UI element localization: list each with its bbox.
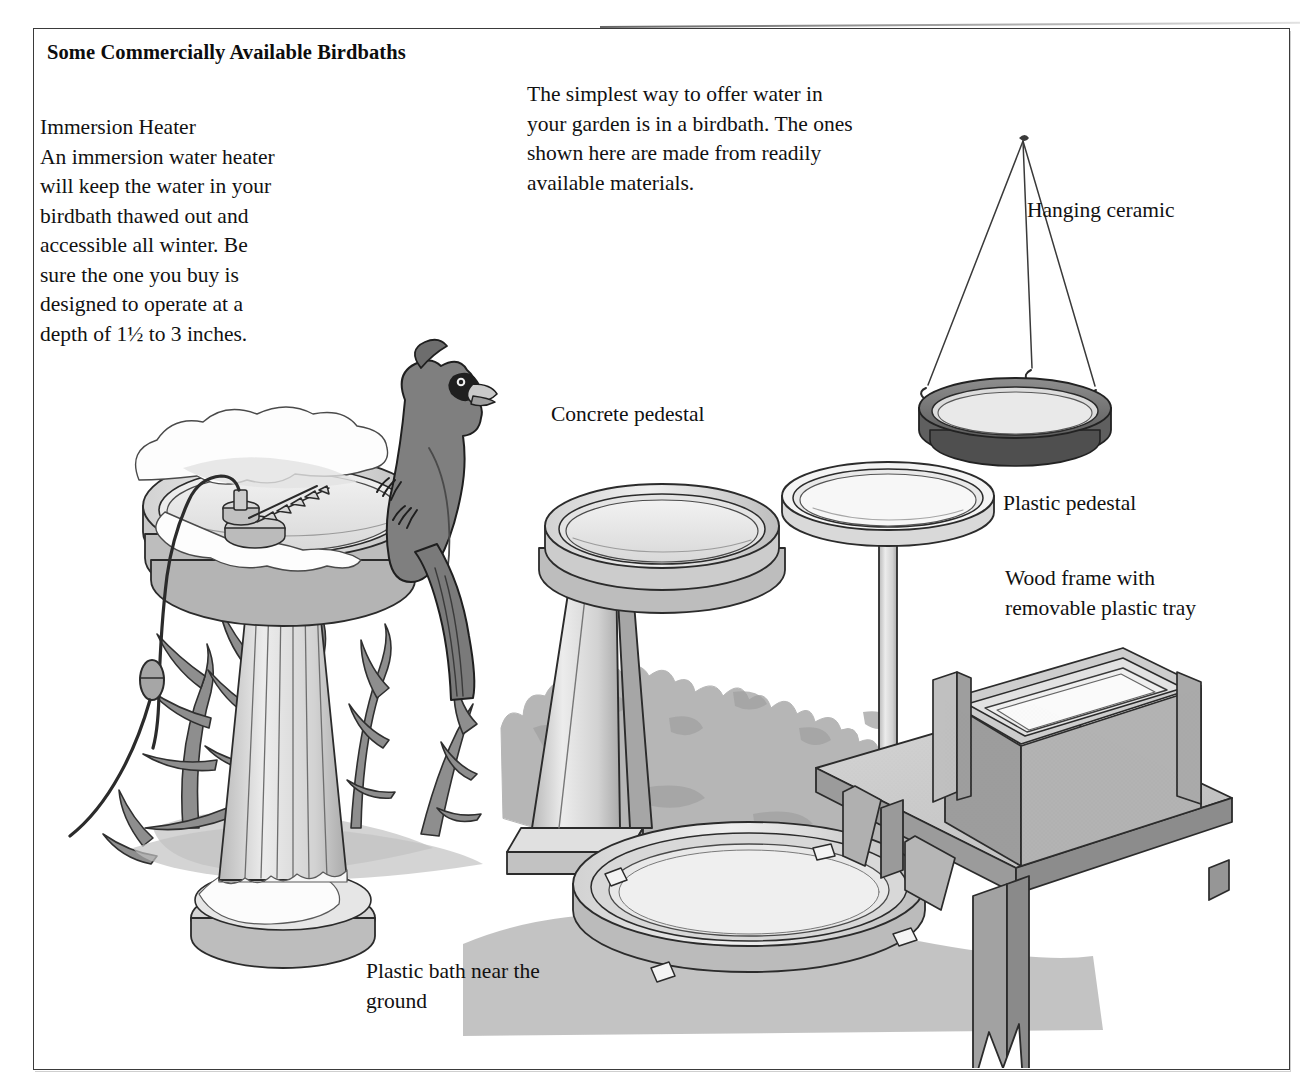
cardinal-bird <box>377 340 497 700</box>
immersion-heater-text: Immersion Heater An immersion water heat… <box>40 113 340 349</box>
hanging-ceramic-birdbath <box>919 135 1111 466</box>
suspension-wires <box>928 141 1095 386</box>
label-hanging-ceramic: Hanging ceramic <box>1027 196 1174 226</box>
intro-text: The simplest way to offer water in your … <box>527 80 857 198</box>
label-plastic-pedestal: Plastic pedestal <box>1003 489 1136 519</box>
heated-birdbath <box>70 340 497 968</box>
figure-page: Some Commercially Available Birdbaths Im… <box>0 0 1307 1088</box>
label-concrete-pedestal: Concrete pedestal <box>551 400 704 430</box>
label-plastic-ground: Plastic bath near the ground <box>366 957 540 1016</box>
figure-title: Some Commercially Available Birdbaths <box>47 41 406 64</box>
label-wood-frame: Wood frame with removable plastic tray <box>1005 564 1196 623</box>
